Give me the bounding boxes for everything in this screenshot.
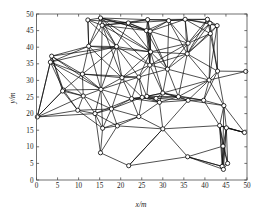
network-node [109,107,113,111]
network-node [218,123,222,127]
x-axis-title: x/m [135,200,147,209]
y-tick-label: 40 [26,44,34,52]
network-node [48,60,52,64]
network-node [183,17,187,21]
network-node [224,126,228,130]
network-node [80,72,84,76]
network-node [161,127,165,131]
network-node [76,108,80,112]
x-tick-label: 25 [138,182,146,190]
network-topology-plot: 0510152025303540455005101520253035404550… [0,0,263,215]
network-node [186,155,190,159]
network-node [86,18,90,22]
network-node [35,115,39,119]
network-node [202,98,206,102]
network-node [93,112,97,116]
network-node [157,100,161,104]
network-node [81,94,85,98]
network-node [101,126,105,130]
network-node [137,75,141,79]
network-node [215,69,219,73]
y-axis-title: y/m [8,92,17,104]
network-node [99,87,103,91]
network-node [114,44,118,48]
x-tick-label: 35 [180,182,188,190]
network-node [205,17,209,21]
network-node [221,144,225,148]
network-node [98,151,102,155]
y-tick-label: 25 [26,94,34,102]
y-tick-label: 10 [26,143,34,151]
network-node [148,63,152,67]
network-node [87,44,91,48]
network-node [176,95,180,99]
network-node [50,54,54,58]
network-node [161,91,165,95]
network-node [146,18,150,22]
network-node [186,98,190,102]
network-node [126,21,130,25]
network-node [208,31,212,35]
network-node [100,23,104,27]
network-node [148,50,152,54]
network-node [167,19,171,23]
x-tick-label: 10 [75,182,83,190]
network-node [120,76,124,80]
network-node [221,167,225,171]
x-tick-label: 50 [243,182,251,190]
y-tick-label: 20 [26,110,34,118]
network-node [165,67,169,71]
network-node [140,95,144,99]
network-node [226,161,230,165]
network-node [61,89,65,93]
figure-container: 0510152025303540455005101520253035404550… [0,0,263,215]
x-tick-label: 30 [159,182,167,190]
network-node [130,97,134,101]
network-node [137,114,141,118]
x-tick-label: 0 [35,182,39,190]
y-tick-label: 30 [26,77,34,85]
x-tick-label: 15 [96,182,104,190]
network-node [208,21,212,25]
network-node [185,52,189,56]
network-node [222,104,226,108]
network-node [148,29,152,33]
y-tick-label: 45 [26,27,34,35]
x-tick-label: 5 [56,182,60,190]
y-tick-label: 15 [26,127,34,135]
x-tick-label: 40 [201,182,209,190]
y-tick-label: 50 [26,11,34,19]
network-node [98,16,102,20]
y-tick-label: 5 [30,160,34,168]
network-node [154,96,158,100]
network-node [186,41,190,45]
x-tick-label: 45 [222,182,230,190]
network-node [207,78,211,82]
network-node [127,164,131,168]
network-node [115,124,119,128]
network-node [242,130,246,134]
y-tick-label: 0 [30,177,34,185]
network-node [145,94,149,98]
network-node [215,24,219,28]
x-tick-label: 20 [117,182,125,190]
y-tick-label: 35 [26,60,34,68]
